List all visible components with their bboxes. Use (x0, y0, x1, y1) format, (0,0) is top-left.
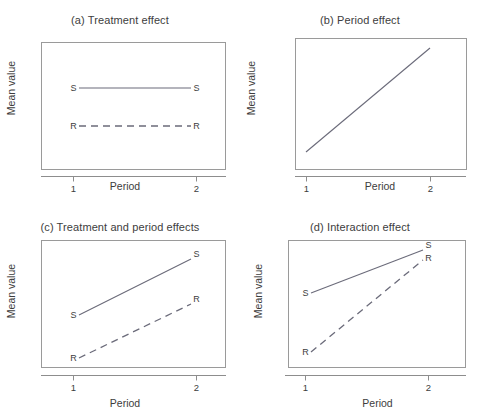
panel-b-series-combined-line (306, 48, 430, 152)
panel-d-x-axis-label: Period (280, 397, 475, 409)
panel-d-label-s-period1: S (302, 288, 308, 298)
panel-b-plot-box (296, 39, 467, 170)
panel-b-period-effect: (b) Period effect Mean value 1 2 Period (240, 0, 480, 208)
panel-d-series-s-line (311, 250, 423, 293)
panel-c-label-r-period1: R (70, 353, 77, 363)
panel-d-label-s-period2: S (425, 240, 431, 250)
panel-c-plot: 1 2 S S R R (0, 207, 240, 417)
panel-d-label-r-period1: R (302, 347, 309, 357)
panel-b-x-axis-label: Period (280, 180, 480, 192)
panel-a-x-axis-label: Period (30, 180, 220, 192)
panel-d-plot: 1 2 S S R R (240, 207, 480, 417)
panel-c-treatment-and-period-effects: (c) Treatment and period effects Mean va… (0, 207, 240, 415)
panel-b-plot: 1 2 (240, 0, 480, 208)
panel-d-interaction-effect: (d) Interaction effect Mean value 1 2 S … (240, 207, 480, 415)
panel-d-tick-label-1: 1 (303, 382, 308, 393)
panel-d-series-r-line (311, 260, 423, 352)
panel-c-label-s-period1: S (70, 310, 76, 320)
panel-c-x-axis-label: Period (30, 397, 220, 409)
panel-c-series-s-line (79, 259, 191, 315)
panel-a-plot-box (42, 43, 226, 170)
panel-c-label-s-period2: S (193, 249, 199, 259)
panel-c-series-r-line (79, 304, 191, 358)
panel-a-label-r-period1: R (70, 121, 77, 131)
figure-four-panel-effects: (a) Treatment effect Mean value 1 2 S S … (0, 0, 480, 417)
panel-c-tick-label-2: 2 (194, 382, 199, 393)
panel-a-label-r-period2: R (193, 121, 200, 131)
panel-c-label-r-period2: R (193, 294, 200, 304)
panel-d-label-r-period2: R (425, 253, 432, 263)
panel-a-treatment-effect: (a) Treatment effect Mean value 1 2 S S … (0, 0, 240, 208)
panel-d-tick-label-2: 2 (426, 382, 431, 393)
panel-c-tick-label-1: 1 (71, 382, 76, 393)
panel-a-label-s-period2: S (193, 83, 199, 93)
panel-a-plot: 1 2 S S R R (0, 0, 240, 208)
panel-a-label-s-period1: S (70, 83, 76, 93)
panel-c-plot-box (42, 241, 226, 368)
